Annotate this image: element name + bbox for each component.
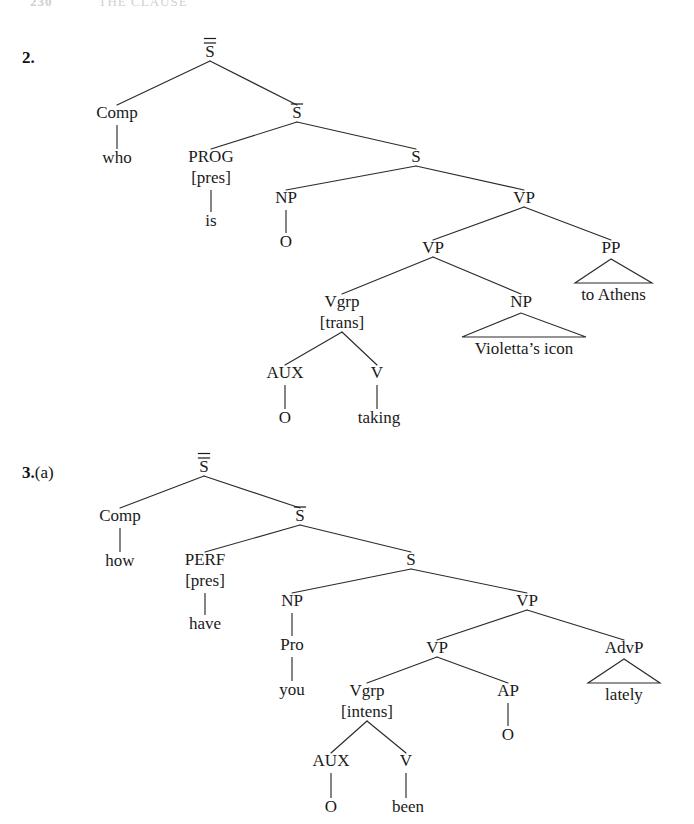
node-vgrp-feature: [intens] [341, 702, 393, 721]
branch-m11-m12 [437, 610, 527, 640]
tree-3a: latelySComphowSPERF[pres]haveSNPProyouVP… [0, 0, 694, 824]
node-s-double-bar: S [199, 457, 208, 476]
node-v: V [400, 751, 413, 770]
triangle-lately [588, 659, 660, 683]
terminal-been: been [392, 797, 425, 816]
branch-m7-m8 [292, 569, 411, 593]
terminal-you: you [279, 680, 305, 699]
node-vp-inner: VP [426, 638, 448, 657]
branch-m14-m17 [331, 721, 367, 753]
branch-m14-m18 [367, 721, 406, 753]
node-s-plain: S [406, 550, 415, 569]
triangle-lately-text: lately [605, 685, 643, 704]
node-perf-feature: [pres] [185, 571, 225, 590]
branch-m1-m2 [120, 476, 204, 508]
node-np-subject: NP [281, 591, 303, 610]
branch-m4-m5 [205, 525, 300, 552]
node-comp: Comp [99, 506, 141, 525]
node-aux: AUX [313, 751, 350, 770]
terminal-o-aux: O [325, 797, 337, 816]
textbook-page: 230THE CLAUSE 2.to AthensVioletta’s icon… [0, 0, 694, 824]
branch-m11-m13 [527, 610, 624, 640]
node-perf: PERF [185, 550, 226, 569]
branch-m12-m14 [367, 657, 437, 683]
branch-m1-m4 [204, 476, 300, 508]
node-advp: AdvP [605, 638, 644, 657]
branch-m4-m7 [300, 525, 411, 552]
terminal-o-ap: O [502, 725, 514, 744]
terminal-how: how [105, 551, 135, 570]
node-vgrp: Vgrp [350, 681, 385, 700]
node-pro: Pro [280, 635, 304, 654]
branch-m7-m11 [411, 569, 527, 593]
terminal-have: have [189, 614, 221, 633]
node-vp-top: VP [516, 591, 538, 610]
node-ap: AP [497, 681, 519, 700]
node-s-single-bar: S [295, 506, 304, 525]
branch-m12-m15 [437, 657, 508, 683]
